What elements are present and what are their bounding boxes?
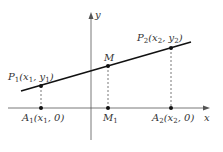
- point-m: [106, 64, 110, 68]
- point-a2: [169, 106, 173, 110]
- point-m1: [106, 106, 110, 110]
- midpoint-diagram: x y P1(x1, y1) M P2(x2, y2) A1(x1, 0) M1…: [0, 0, 223, 152]
- y-axis-arrow-icon: [89, 12, 94, 19]
- label-a2: A2(x2, 0): [151, 112, 194, 125]
- label-p2: P2(x2, y2): [136, 32, 183, 45]
- point-p2: [169, 46, 173, 50]
- y-axis-label: y: [94, 9, 101, 20]
- x-axis-arrow-icon: [203, 106, 210, 111]
- x-axis-label: x: [204, 112, 210, 123]
- point-a1: [39, 106, 43, 110]
- label-m1: M1: [102, 112, 118, 125]
- label-m: M: [103, 52, 115, 63]
- label-a1: A1(x1, 0): [21, 112, 64, 125]
- label-p1: P1(x1, y1): [7, 71, 54, 84]
- point-p1: [39, 84, 43, 88]
